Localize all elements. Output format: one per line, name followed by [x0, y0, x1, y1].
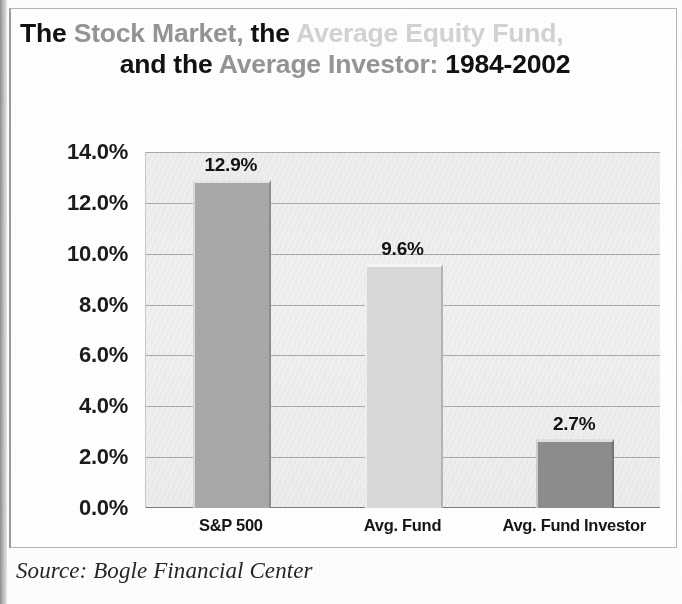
title-run: and the: [120, 49, 219, 79]
y-axis-tick-label: 12.0%: [8, 190, 128, 216]
y-axis-tick-label: 0.0%: [8, 495, 128, 521]
y-axis-tick-label: 2.0%: [8, 444, 128, 470]
x-axis-tick-label: Avg. Fund Investor: [474, 516, 674, 535]
title-run: the: [251, 18, 296, 48]
bar-surface: [193, 180, 271, 508]
chart-title-line-1: The Stock Market, the Average Equity Fun…: [14, 18, 676, 49]
y-axis-tick-label: 14.0%: [8, 139, 128, 165]
y-gridline: [146, 152, 660, 153]
x-axis-tick-label: Avg. Fund: [303, 516, 503, 535]
title-run: Average Equity Fund,: [296, 18, 563, 48]
chart-clipping: The Stock Market, the Average Equity Fun…: [0, 0, 682, 604]
title-run: Average Investor:: [219, 49, 446, 79]
title-run: The: [20, 18, 74, 48]
title-run: Stock Market,: [74, 18, 251, 48]
bar[interactable]: [193, 180, 271, 508]
plot-area: [145, 152, 660, 508]
bar-value-label: 2.7%: [494, 413, 654, 435]
bar[interactable]: [365, 264, 443, 508]
bar-chart: 14.0%12.0%10.0%8.0%6.0%4.0%2.0%0.0%12.9%…: [14, 128, 674, 548]
title-run: 1984-2002: [445, 49, 570, 79]
bar-value-label: 9.6%: [323, 238, 483, 260]
scan-edge-shadow: [0, 0, 7, 604]
x-axis-tick-label: S&P 500: [131, 516, 331, 535]
y-axis-tick-label: 8.0%: [8, 292, 128, 318]
y-axis-tick-label: 10.0%: [8, 241, 128, 267]
y-axis-tick-label: 6.0%: [8, 342, 128, 368]
chart-title-line-2: and the Average Investor: 1984-2002: [14, 49, 676, 80]
bar[interactable]: [536, 439, 614, 508]
source-note: Source: Bogle Financial Center: [16, 558, 313, 584]
bar-value-label: 12.9%: [151, 154, 311, 176]
bar-surface: [536, 439, 614, 508]
bar-surface: [365, 264, 443, 508]
chart-title: The Stock Market, the Average Equity Fun…: [14, 18, 676, 81]
y-axis-tick-label: 4.0%: [8, 393, 128, 419]
